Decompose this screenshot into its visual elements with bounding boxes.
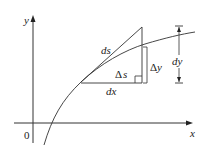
tangent-line-ds	[81, 27, 142, 82]
dx-label: dx	[106, 85, 117, 97]
dy-label: dy	[172, 55, 183, 67]
y-axis-label: y	[23, 14, 29, 26]
arc-length-diagram: y x 0 ds Δs Δy dx dy	[0, 0, 209, 155]
x-axis-label: x	[189, 127, 195, 139]
delta-y-bracket	[143, 47, 147, 83]
delta-y-label: Δy	[150, 61, 162, 73]
y-axis-arrow-icon	[31, 15, 36, 22]
ds-label: ds	[101, 44, 111, 56]
right-angle-marker	[135, 76, 142, 83]
dy-arrow-up-icon	[177, 27, 181, 32]
x-axis-arrow-icon	[186, 121, 193, 126]
origin-label: 0	[24, 129, 30, 141]
dy-arrow-down-icon	[177, 77, 181, 82]
curve	[44, 32, 195, 145]
delta-s-label: Δs	[115, 68, 127, 80]
